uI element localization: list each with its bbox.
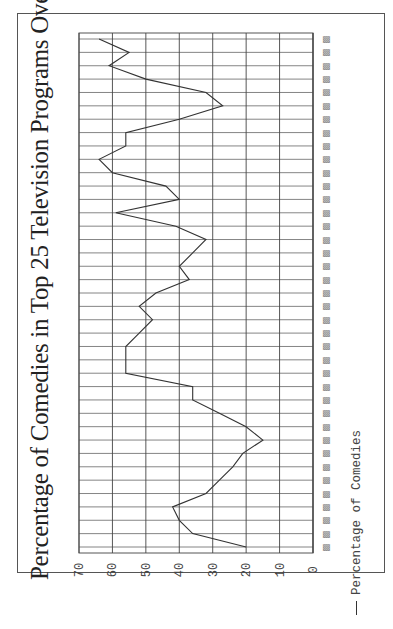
value-tick-label: 20	[240, 563, 254, 577]
category-tick-label: ▩	[322, 128, 331, 138]
category-tick-label: ▩	[322, 502, 331, 512]
category-tick-label: ▩	[322, 101, 331, 111]
category-tick-label: ▩	[322, 328, 331, 338]
category-tick-label: ▩	[322, 114, 331, 124]
category-tick-label: ▩	[322, 208, 331, 218]
value-tick-label: 50	[140, 563, 154, 577]
category-tick-label: ▩	[322, 47, 331, 57]
category-tick-label: ▩	[322, 315, 331, 325]
category-tick-label: ▩	[322, 34, 331, 44]
legend: Percentage of Comedies	[347, 375, 367, 615]
category-tick-label: ▩	[322, 168, 331, 178]
category-tick-label: ▩	[322, 448, 331, 458]
category-tick-label: ▩	[322, 355, 331, 365]
category-tick-label: ▩	[322, 181, 331, 191]
category-tick-label: ▩	[322, 235, 331, 245]
plot-area: ▩▩▩▩▩▩▩▩▩▩▩▩▩▩▩▩▩▩▩▩▩▩▩▩▩▩▩▩▩▩▩▩▩▩▩▩▩▩▩0…	[0, 0, 393, 629]
legend-line-swatch-icon	[356, 601, 357, 615]
value-tick-label: 40	[173, 563, 187, 577]
category-tick-label: ▩	[322, 462, 331, 472]
category-tick-label: ▩	[322, 248, 331, 258]
category-tick-label: ▩	[322, 301, 331, 311]
category-tick-label: ▩	[322, 275, 331, 285]
category-tick-label: ▩	[322, 542, 331, 552]
legend-label: Percentage of Comedies	[350, 430, 364, 595]
value-tick-label: 60	[106, 563, 120, 577]
value-tick-label: 70	[73, 563, 87, 577]
category-tick-label: ▩	[322, 61, 331, 71]
category-tick-label: ▩	[322, 395, 331, 405]
category-tick-label: ▩	[322, 288, 331, 298]
category-tick-label: ▩	[322, 475, 331, 485]
category-tick-label: ▩	[322, 489, 331, 499]
category-tick-label: ▩	[322, 422, 331, 432]
category-tick-label: ▩	[322, 408, 331, 418]
value-tick-label: 10	[274, 563, 288, 577]
category-tick-label: ▩	[322, 515, 331, 525]
category-tick-label: ▩	[322, 194, 331, 204]
category-tick-label: ▩	[322, 341, 331, 351]
category-tick-label: ▩	[322, 382, 331, 392]
category-tick-label: ▩	[322, 74, 331, 84]
category-tick-label: ▩	[322, 154, 331, 164]
category-tick-label: ▩	[322, 141, 331, 151]
value-tick-label: 0	[307, 566, 321, 573]
category-tick-label: ▩	[322, 87, 331, 97]
category-tick-label: ▩	[322, 261, 331, 271]
value-tick-label: 30	[207, 563, 221, 577]
category-tick-label: ▩	[322, 529, 331, 539]
category-tick-label: ▩	[322, 435, 331, 445]
category-tick-label: ▩	[322, 368, 331, 378]
category-tick-label: ▩	[322, 221, 331, 231]
